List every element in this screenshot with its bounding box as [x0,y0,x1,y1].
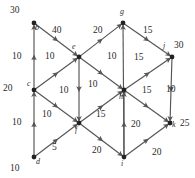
node-label-e: e [72,43,76,51]
edge-direction-marker [145,73,148,75]
edge-direction-marker [54,38,57,40]
edge-direction-marker [99,138,102,140]
node-label-g: g [120,8,124,16]
edge-weight-b-e: 40 [52,26,62,36]
edge-weight-f-i: 20 [92,146,102,156]
node-c[interactable] [32,88,37,93]
node-supply-b: 30 [10,6,20,16]
edge-weight-h-j: 15 [134,53,144,63]
node-e[interactable] [77,55,82,60]
edge-direction-marker [144,140,147,142]
edge-direction-marker [54,73,57,75]
node-supply-d: 10 [10,164,20,174]
edge-weight-f-h: 15 [96,110,106,120]
edge-weight-d-f: 5 [52,143,57,153]
edge-direction-marker [54,104,57,106]
edge-weight-d-c: 10 [12,118,22,128]
edge-direction-marker [144,105,147,107]
node-label-i: i [121,160,123,168]
edge-weight-c-f: 10 [42,110,52,120]
node-j[interactable] [170,55,175,60]
node-g[interactable] [121,21,126,26]
edge-weight-e-h: 10 [88,80,98,90]
edge-weight-i-g: 10 [107,52,117,62]
edge-weight-i-h: 20 [131,120,141,130]
edge-weight-e-g: 20 [93,26,103,36]
node-label-c: c [27,80,31,88]
node-supply-j: 30 [174,41,184,51]
node-label-j: j [163,42,165,50]
edge-weight-h-k: 15 [142,86,152,96]
edge-weight-j-k: 10 [166,85,176,95]
node-supply-k: 25 [180,119,190,129]
edge-weight-g-j: 15 [143,26,153,36]
node-label-d: d [36,158,40,166]
node-label-f: f [75,126,77,134]
node-f[interactable] [77,121,82,126]
edge-direction-marker [99,71,102,73]
node-label-b: b [35,24,39,32]
edge-direction-marker [98,40,101,42]
edge-weight-c-e: 10 [45,52,55,62]
network-flow-diagram: 10402015101010101510151015105202020b30ge… [0,0,195,178]
edge-weight-e-f: 10 [59,86,69,96]
node-layer [32,21,175,160]
node-label-h: h [119,93,123,101]
edge-weight-i-k: 20 [152,148,162,158]
edge-weight-c-b: 10 [12,52,22,62]
edge-direction-marker [145,38,148,40]
node-supply-c: 20 [3,84,13,94]
node-label-k: k [172,121,176,129]
